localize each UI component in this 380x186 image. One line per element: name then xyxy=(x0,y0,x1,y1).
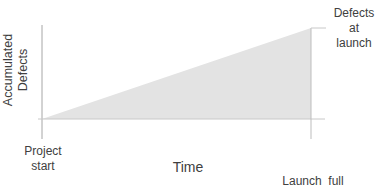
y-axis-label-line1: Accumulated xyxy=(1,30,16,110)
x-start-label: Project start xyxy=(18,144,68,174)
x-axis-title: Time xyxy=(163,160,213,175)
x-end-label: Launch full product xyxy=(278,144,348,186)
annotation-line3: launch xyxy=(328,36,380,51)
x-start-label-line1: Project xyxy=(18,144,68,159)
annotation-line2: at xyxy=(328,21,380,36)
x-start-label-line2: start xyxy=(18,159,68,174)
annotation-line1: Defects xyxy=(328,6,380,21)
defects-at-launch-annotation: Defects at launch xyxy=(328,6,380,51)
y-axis-label: Accumulated Defects xyxy=(1,30,35,110)
x-end-label-line1: Launch full xyxy=(278,174,348,186)
defects-area xyxy=(42,28,311,119)
y-axis-label-line2: Defects xyxy=(16,30,31,110)
